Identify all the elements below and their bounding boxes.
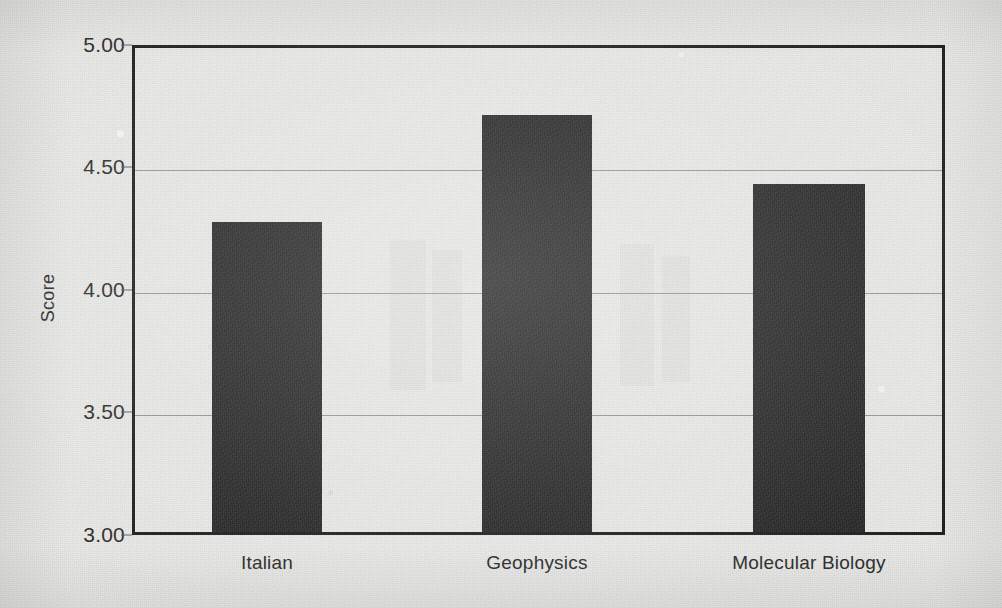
- y-tick-label: 4.50: [5, 155, 125, 179]
- y-tick-mark: [121, 412, 132, 413]
- x-tick-label-molecular-biology: Molecular Biology: [732, 552, 885, 574]
- y-tick-mark: [121, 535, 132, 536]
- y-tick-mark: [121, 167, 132, 168]
- plot-area: [132, 45, 945, 535]
- scanned-page: Score 5.00 4.50 4.00 3.50 3.00 Italian G…: [0, 0, 1002, 608]
- bar-italian: [212, 222, 322, 532]
- y-tick-label: 5.00: [5, 33, 125, 57]
- y-axis-ticks: 5.00 4.50 4.00 3.50 3.00: [0, 0, 125, 608]
- x-tick-label-italian: Italian: [241, 552, 293, 574]
- x-tick-label-geophysics: Geophysics: [486, 552, 587, 574]
- bar-molecular-biology: [753, 184, 865, 532]
- y-tick-mark: [121, 45, 132, 46]
- bar-geophysics: [482, 115, 592, 532]
- y-tick-mark: [121, 290, 132, 291]
- bar-chart: Score 5.00 4.50 4.00 3.50 3.00 Italian G…: [0, 0, 1002, 608]
- y-tick-label: 4.00: [5, 278, 125, 302]
- y-tick-label: 3.00: [5, 523, 125, 547]
- y-tick-label: 3.50: [5, 400, 125, 424]
